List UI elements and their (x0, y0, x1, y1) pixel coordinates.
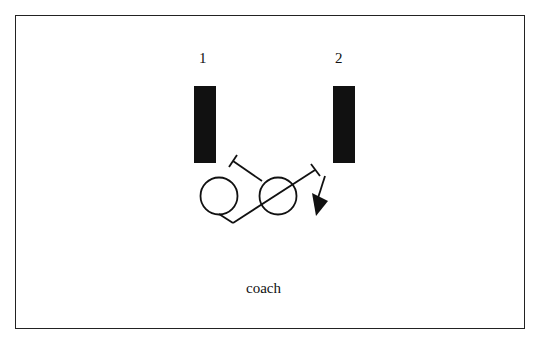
player-right (260, 178, 297, 215)
post-1-label: 1 (199, 50, 207, 67)
path-to-post-1 (229, 155, 262, 181)
player-left (201, 178, 238, 215)
ball-direction-arrow (312, 176, 328, 216)
post-2 (333, 86, 355, 163)
post-2-label: 2 (335, 50, 343, 67)
post-1 (194, 86, 216, 163)
coach-label: coach (246, 280, 281, 297)
